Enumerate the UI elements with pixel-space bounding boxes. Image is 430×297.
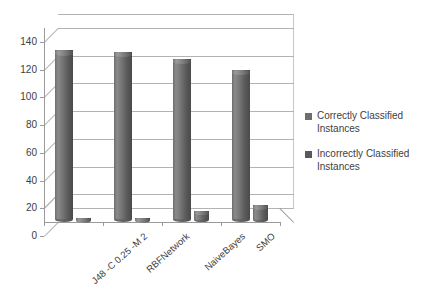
cylinder-top-cap: [232, 70, 250, 75]
plot-area: 020406080100120140: [44, 14, 294, 222]
y-axis-tick: [40, 236, 44, 237]
gridline: [58, 28, 294, 29]
legend-item[interactable]: Correctly Classified Instances: [305, 110, 427, 135]
y-axis-tick-label: 120: [20, 65, 37, 75]
bar-correctly-classified[interactable]: [173, 59, 191, 223]
legend-label-incorrectly-classified: Incorrectly Classified Instances: [317, 148, 409, 173]
x-axis-label: NaiveBayes: [203, 231, 247, 272]
cylinder-top-cap: [114, 52, 132, 57]
x-axis-tick: [103, 222, 104, 226]
legend-label-line1: Correctly Classified: [317, 110, 403, 121]
x-axis-tick: [221, 222, 222, 226]
gridline-connector: [44, 222, 59, 237]
x-axis-tick: [44, 222, 45, 226]
x-axis-tick: [162, 222, 163, 226]
chart-legend: Correctly Classified Instances Incorrect…: [305, 110, 427, 186]
y-axis-line: [44, 28, 45, 222]
y-axis-tick-label: 100: [20, 92, 37, 102]
legend-label-line1: Incorrectly Classified: [317, 148, 409, 159]
bar-correctly-classified[interactable]: [55, 50, 73, 222]
legend-label-correctly-classified: Correctly Classified Instances: [317, 110, 403, 135]
cylinder-body: [55, 50, 73, 219]
bar-incorrectly-classified[interactable]: [76, 218, 91, 222]
gridline-connector: [44, 28, 59, 43]
chart-container: 020406080100120140 J48 -C 0.25 -M 2RBFNe…: [0, 0, 430, 297]
legend-swatch-incorrectly-classified: [305, 151, 312, 158]
cylinder-top-cap: [173, 59, 191, 64]
cylinder-top-cap: [55, 50, 73, 55]
bar-correctly-classified[interactable]: [232, 70, 250, 222]
y-axis-tick-label: 80: [26, 120, 37, 130]
legend-label-line2: Instances: [317, 123, 360, 134]
cylinder-top-cap: [253, 205, 268, 210]
bar-incorrectly-classified[interactable]: [135, 218, 150, 222]
x-axis-label: RBFNetwork: [144, 231, 190, 274]
legend-swatch-correctly-classified: [305, 113, 312, 120]
gridline: [58, 56, 294, 57]
cylinder-body: [114, 52, 132, 220]
legend-item[interactable]: Incorrectly Classified Instances: [305, 148, 427, 173]
x-axis-label: SMO: [254, 231, 276, 253]
y-axis-tick-label: 20: [26, 203, 37, 213]
bar-incorrectly-classified[interactable]: [194, 211, 209, 222]
cylinder-top-cap: [76, 218, 91, 223]
floor-right-edge: [279, 208, 294, 223]
cylinder-top-cap: [135, 218, 150, 223]
y-axis-tick-label: 0: [31, 231, 37, 241]
bar-correctly-classified[interactable]: [114, 52, 132, 222]
bar-incorrectly-classified[interactable]: [253, 205, 268, 222]
cylinder-body: [173, 59, 191, 220]
y-axis-tick-label: 40: [26, 176, 37, 186]
x-axis-label: J48 -C 0.25 -M 2: [90, 231, 149, 285]
x-axis-tick: [280, 222, 281, 226]
legend-label-line2: Instances: [317, 161, 360, 172]
y-axis-tick-label: 140: [20, 37, 37, 47]
y-axis-tick-label: 60: [26, 148, 37, 158]
cylinder-body: [232, 70, 250, 220]
